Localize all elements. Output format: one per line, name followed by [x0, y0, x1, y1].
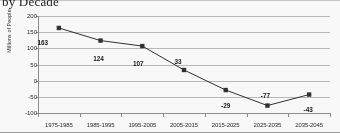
chart-screenshot: by Decade Millions of People 20015010050…: [0, 0, 340, 133]
y-axis-tick-label: 200: [13, 13, 37, 19]
x-axis-tick-label: 2025-2035: [254, 122, 282, 128]
x-axis-tick-mark: [288, 113, 289, 117]
x-axis-tick-mark: [121, 113, 122, 117]
y-axis-tick-label: -100: [13, 110, 37, 116]
data-point-marker: [182, 68, 186, 72]
x-axis-tick-mark: [80, 113, 81, 117]
y-axis-tick-label: 50: [13, 62, 37, 68]
y-axis-tick-label: -50: [13, 94, 37, 100]
series-markers: [57, 26, 312, 108]
x-axis-tick-label: 1995-2005: [128, 122, 156, 128]
x-axis-tick-mark: [330, 113, 331, 117]
data-point-marker: [98, 38, 102, 42]
x-axis-tick-mark: [38, 113, 39, 117]
x-axis-tick-mark: [163, 113, 164, 117]
data-point-marker: [57, 26, 61, 30]
y-axis-tick-label: 150: [13, 29, 37, 35]
data-point-label: 124: [93, 54, 104, 61]
data-point-marker: [307, 92, 311, 96]
x-axis-tick-label: 1985-1995: [87, 122, 115, 128]
x-axis-tick-label: 1975-1985: [45, 122, 73, 128]
data-point-label: 107: [133, 60, 144, 67]
data-point-label: -77: [261, 91, 270, 98]
data-point-marker: [224, 88, 228, 92]
y-axis-tick-label: 100: [13, 45, 37, 51]
series-polyline: [59, 28, 309, 106]
data-point-label: -29: [221, 102, 230, 109]
x-axis-tick-mark: [247, 113, 248, 117]
data-point-label: 33: [174, 57, 181, 64]
x-axis-tick-label: 2035-2045: [295, 122, 323, 128]
data-point-marker: [265, 103, 269, 107]
y-axis-tick-label: 0: [13, 78, 37, 84]
frame-bottom-border: [0, 132, 340, 133]
x-axis-tick-label: 2015-2025: [212, 122, 240, 128]
data-point-label: 163: [38, 38, 49, 45]
x-axis-tick-mark: [205, 113, 206, 117]
data-point-marker: [140, 44, 144, 48]
x-axis-tick-label: 2005-2015: [170, 122, 198, 128]
data-point-label: -43: [304, 105, 313, 112]
